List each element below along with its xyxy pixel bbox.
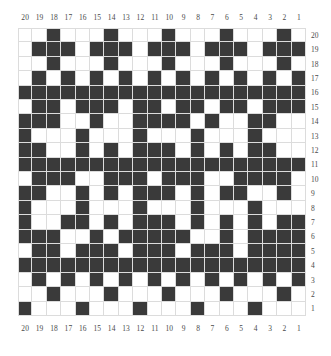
grid-cell[interactable] (191, 42, 205, 56)
grid-cell[interactable] (220, 186, 234, 200)
grid-cell[interactable] (76, 158, 90, 172)
grid-cell[interactable] (220, 215, 234, 229)
grid-cell[interactable] (176, 28, 190, 42)
grid-cell[interactable] (234, 143, 248, 157)
grid-cell[interactable] (61, 143, 75, 157)
grid-cell[interactable] (220, 287, 234, 301)
grid-cell[interactable] (90, 230, 104, 244)
grid-cell[interactable] (248, 244, 262, 258)
grid-cell[interactable] (205, 244, 219, 258)
grid-cell[interactable] (191, 86, 205, 100)
grid-cell[interactable] (191, 158, 205, 172)
grid-cell[interactable] (76, 186, 90, 200)
grid-cell[interactable] (104, 42, 118, 56)
grid-cell[interactable] (162, 258, 176, 272)
grid-cell[interactable] (176, 57, 190, 71)
grid-cell[interactable] (292, 287, 306, 301)
grid-cell[interactable] (248, 57, 262, 71)
grid-cell[interactable] (277, 28, 291, 42)
grid-cell[interactable] (32, 42, 46, 56)
grid-cell[interactable] (47, 28, 61, 42)
grid-cell[interactable] (220, 302, 234, 316)
grid-cell[interactable] (263, 143, 277, 157)
grid-cell[interactable] (104, 114, 118, 128)
grid-cell[interactable] (234, 100, 248, 114)
grid-cell[interactable] (220, 28, 234, 42)
grid-cell[interactable] (119, 86, 133, 100)
grid-cell[interactable] (18, 172, 32, 186)
grid-cell[interactable] (220, 230, 234, 244)
grid-cell[interactable] (133, 186, 147, 200)
grid-cell[interactable] (205, 86, 219, 100)
grid-cell[interactable] (234, 57, 248, 71)
grid-cell[interactable] (90, 302, 104, 316)
grid-cell[interactable] (61, 287, 75, 301)
grid-cell[interactable] (205, 28, 219, 42)
grid-cell[interactable] (61, 100, 75, 114)
grid-cell[interactable] (205, 129, 219, 143)
grid-cell[interactable] (191, 244, 205, 258)
grid-cell[interactable] (263, 28, 277, 42)
grid-cell[interactable] (32, 28, 46, 42)
grid-cell[interactable] (162, 201, 176, 215)
grid-cell[interactable] (162, 28, 176, 42)
grid-cell[interactable] (292, 100, 306, 114)
grid-cell[interactable] (104, 172, 118, 186)
grid-cell[interactable] (119, 158, 133, 172)
grid-cell[interactable] (47, 57, 61, 71)
grid-cell[interactable] (90, 129, 104, 143)
grid-cell[interactable] (119, 244, 133, 258)
grid-cell[interactable] (148, 42, 162, 56)
grid-cell[interactable] (133, 244, 147, 258)
grid-cell[interactable] (162, 172, 176, 186)
grid-cell[interactable] (133, 287, 147, 301)
grid-cell[interactable] (234, 244, 248, 258)
grid-cell[interactable] (292, 143, 306, 157)
grid-cell[interactable] (220, 172, 234, 186)
grid-cell[interactable] (18, 57, 32, 71)
grid-cell[interactable] (133, 100, 147, 114)
grid-cell[interactable] (148, 71, 162, 85)
grid-cell[interactable] (292, 172, 306, 186)
grid-cell[interactable] (133, 143, 147, 157)
grid-cell[interactable] (191, 143, 205, 157)
grid-cell[interactable] (47, 244, 61, 258)
grid-cell[interactable] (205, 114, 219, 128)
grid-cell[interactable] (76, 42, 90, 56)
grid-cell[interactable] (191, 186, 205, 200)
grid-cell[interactable] (234, 230, 248, 244)
grid-cell[interactable] (234, 129, 248, 143)
grid-cell[interactable] (292, 215, 306, 229)
grid-cell[interactable] (248, 114, 262, 128)
grid-cell[interactable] (119, 28, 133, 42)
grid-cell[interactable] (104, 129, 118, 143)
grid-cell[interactable] (277, 273, 291, 287)
grid-cell[interactable] (277, 158, 291, 172)
grid-cell[interactable] (148, 215, 162, 229)
grid-cell[interactable] (90, 71, 104, 85)
grid-cell[interactable] (18, 302, 32, 316)
grid-cell[interactable] (263, 158, 277, 172)
grid-cell[interactable] (18, 71, 32, 85)
grid-cell[interactable] (32, 244, 46, 258)
grid-cell[interactable] (32, 143, 46, 157)
grid-cell[interactable] (234, 302, 248, 316)
grid-cell[interactable] (148, 186, 162, 200)
grid-cell[interactable] (277, 201, 291, 215)
grid-cell[interactable] (205, 172, 219, 186)
grid-cell[interactable] (292, 273, 306, 287)
grid-cell[interactable] (248, 258, 262, 272)
grid-cell[interactable] (76, 244, 90, 258)
grid-cell[interactable] (61, 230, 75, 244)
grid-cell[interactable] (191, 28, 205, 42)
grid-cell[interactable] (191, 57, 205, 71)
grid-cell[interactable] (61, 273, 75, 287)
grid-cell[interactable] (220, 158, 234, 172)
grid-cell[interactable] (234, 258, 248, 272)
grid-cell[interactable] (104, 28, 118, 42)
grid-cell[interactable] (176, 172, 190, 186)
grid-cell[interactable] (162, 71, 176, 85)
grid-cell[interactable] (47, 71, 61, 85)
grid-cell[interactable] (61, 71, 75, 85)
grid-cell[interactable] (248, 143, 262, 157)
